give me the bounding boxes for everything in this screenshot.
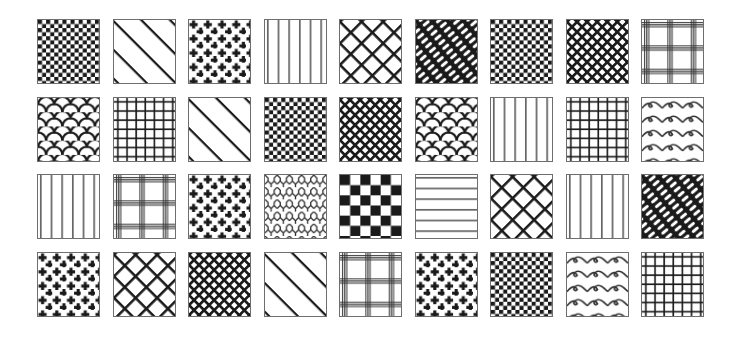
pattern-tile-chain-link — [264, 174, 327, 239]
pattern-tile-grid-lines — [641, 252, 704, 317]
crosses-pattern-icon — [38, 253, 99, 316]
diamond-lattice-dense-pattern-icon — [189, 253, 250, 316]
checker-small-pattern-icon — [491, 20, 552, 83]
waves-pattern-icon — [642, 98, 703, 161]
diamond-lattice-dense-pattern-icon — [340, 98, 401, 161]
grid-lines-pattern-icon — [114, 98, 175, 161]
crosses-pattern-icon — [416, 253, 477, 316]
pattern-tile-grid-lines — [113, 97, 176, 162]
vertical-lines-pattern-icon — [265, 20, 326, 83]
scales-pattern-icon — [38, 98, 99, 161]
pattern-tile-waves — [641, 97, 704, 162]
plaid-pattern-icon — [340, 253, 401, 316]
grid-lines-pattern-icon — [642, 253, 703, 316]
plaid-pattern-icon — [114, 175, 175, 238]
pattern-tile-crosses — [415, 252, 478, 317]
scales-pattern-icon — [416, 98, 477, 161]
diagonal-wide-pattern-icon — [114, 20, 175, 83]
pattern-tile-diagonal-bricks — [415, 19, 478, 84]
pattern-tile-crosses — [188, 19, 251, 84]
pattern-tile-checker-small — [264, 97, 327, 162]
pattern-tile-diamond-lattice — [490, 174, 553, 239]
pattern-tile-diagonal-wide — [264, 252, 327, 317]
waves-pattern-icon — [567, 253, 628, 316]
pattern-tile-crosses — [37, 252, 100, 317]
crosses-pattern-icon — [189, 175, 250, 238]
pattern-tile-diamond-lattice-dense — [339, 97, 402, 162]
vertical-lines-pattern-icon — [567, 175, 628, 238]
checker-small-pattern-icon — [491, 253, 552, 316]
vertical-lines-pattern-icon — [38, 175, 99, 238]
diamond-lattice-dense-pattern-icon — [567, 20, 628, 83]
pattern-tile-diamond-lattice-dense — [566, 19, 629, 84]
pattern-tile-diamond-lattice — [339, 19, 402, 84]
pattern-tile-plaid — [641, 19, 704, 84]
pattern-tile-scales — [415, 97, 478, 162]
diagonal-wide-pattern-icon — [189, 98, 250, 161]
diamond-lattice-pattern-icon — [491, 175, 552, 238]
diagonal-bricks-pattern-icon — [416, 20, 477, 83]
checker-small-pattern-icon — [265, 98, 326, 161]
pattern-tile-checker-small — [37, 19, 100, 84]
pattern-tile-checker-large — [339, 174, 402, 239]
checker-small-pattern-icon — [38, 20, 99, 83]
pattern-tile-diagonal-wide — [113, 19, 176, 84]
pattern-tile-crosses — [188, 174, 251, 239]
pattern-tile-vertical-lines — [37, 174, 100, 239]
diamond-lattice-pattern-icon — [114, 253, 175, 316]
pattern-tile-diagonal-wide — [188, 97, 251, 162]
pattern-tile-diagonal-bricks — [641, 174, 704, 239]
pattern-tile-horizontal-lines — [415, 174, 478, 239]
horizontal-lines-pattern-icon — [416, 175, 477, 238]
pattern-tile-vertical-lines — [264, 19, 327, 84]
checker-large-pattern-icon — [340, 175, 401, 238]
grid-lines-pattern-icon — [567, 98, 628, 161]
pattern-tile-vertical-lines — [566, 174, 629, 239]
pattern-tile-diamond-lattice — [113, 252, 176, 317]
vertical-lines-pattern-icon — [491, 98, 552, 161]
pattern-tile-checker-small — [490, 19, 553, 84]
plaid-pattern-icon — [642, 20, 703, 83]
pattern-tile-plaid — [339, 252, 402, 317]
diagonal-bricks-pattern-icon — [642, 175, 703, 238]
pattern-tile-grid-lines — [566, 97, 629, 162]
pattern-tile-scales — [37, 97, 100, 162]
pattern-tile-diamond-lattice-dense — [188, 252, 251, 317]
pattern-tile-waves — [566, 252, 629, 317]
pattern-tile-vertical-lines — [490, 97, 553, 162]
pattern-grid — [37, 19, 704, 317]
diagonal-wide-pattern-icon — [265, 253, 326, 316]
pattern-tile-checker-small — [490, 252, 553, 317]
pattern-tile-plaid — [113, 174, 176, 239]
diamond-lattice-pattern-icon — [340, 20, 401, 83]
crosses-pattern-icon — [189, 20, 250, 83]
chain-link-pattern-icon — [265, 175, 326, 238]
